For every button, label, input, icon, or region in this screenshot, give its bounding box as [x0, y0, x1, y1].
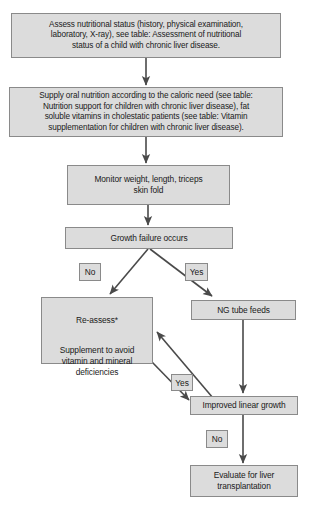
node-assess-nutritional-status: Assess nutritional status (history, phys… — [11, 13, 281, 58]
node-growth-failure-occurs: Growth failure occurs — [65, 227, 233, 249]
node-ng-tube-feeds: NG tube feeds — [191, 300, 296, 320]
node-reassess-body: Supplement to avoid vitamin and mineral … — [46, 345, 148, 378]
node-ng-tube-text: NG tube feeds — [217, 305, 270, 316]
flowchart-connectors — [0, 0, 315, 508]
node-assess-text: Assess nutritional status (history, phys… — [49, 20, 243, 52]
node-growth-failure-text: Growth failure occurs — [110, 233, 187, 244]
node-improved-linear-growth: Improved linear growth — [190, 396, 298, 415]
node-supply-oral-nutrition: Supply oral nutrition according to the c… — [9, 87, 283, 137]
node-monitor-text: Monitor weight, length, triceps skin fol… — [94, 174, 202, 196]
edge-label-no-branch: No — [79, 263, 101, 281]
edge-label-improved-no: No — [206, 430, 228, 448]
node-supply-text: Supply oral nutrition according to the c… — [39, 91, 253, 133]
node-reassess-title: Re-assess* — [46, 315, 148, 326]
edge-label-loop-yes: Yes — [171, 374, 193, 391]
node-evaluate-liver-transplantation: Evaluate for liver transplantation — [190, 465, 298, 497]
edge-label-improved-no-text: No — [212, 434, 223, 444]
node-evaluate-text: Evaluate for liver transplantation — [214, 470, 275, 492]
node-monitor-measurements: Monitor weight, length, triceps skin fol… — [67, 165, 230, 205]
connector-growth-failure-to-reassess — [110, 249, 148, 294]
node-reassess-supplement: Re-assess* Supplement to avoid vitamin a… — [41, 297, 153, 364]
edge-label-no-branch-text: No — [85, 267, 96, 277]
flowchart-canvas: Assess nutritional status (history, phys… — [0, 0, 315, 508]
node-improved-text: Improved linear growth — [203, 400, 286, 411]
edge-label-yes-branch-text: Yes — [190, 267, 204, 277]
edge-label-loop-yes-text: Yes — [175, 378, 189, 388]
edge-label-yes-branch: Yes — [185, 263, 208, 281]
